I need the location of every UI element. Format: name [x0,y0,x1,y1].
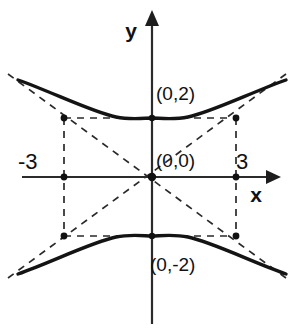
point-3-neg2 [233,233,240,240]
origin-label: (0,0) [156,150,195,171]
hyperbola-svg: y x (0,2) (0,0) (0,-2) -3 3 [0,0,290,330]
x-tick-label-negative-3: -3 [18,149,38,174]
y-axis-arrowhead [145,10,159,26]
y-axis-label: y [125,19,137,42]
x-axis-arrowhead [266,170,281,184]
point-neg3-neg2 [61,233,68,240]
upper-vertex-label: (0,2) [156,83,195,104]
point-vertex-lower [149,233,155,239]
lower-vertex-label: (0,-2) [150,254,195,275]
point-origin [148,173,156,181]
point-vertex-upper [149,115,155,121]
point-neg3-2 [61,115,68,122]
point-3-2 [233,115,240,122]
hyperbola-figure: y x (0,2) (0,0) (0,-2) -3 3 [0,0,290,330]
x-axis-label: x [250,183,262,206]
x-tick-label-positive-3: 3 [236,149,248,174]
point-neg3-0 [61,174,68,181]
point-3-0 [233,174,240,181]
